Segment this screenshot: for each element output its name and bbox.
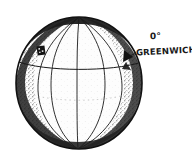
globe-drawing: [0, 0, 192, 165]
globe-illustration: 0° GREENWICH: [0, 0, 192, 165]
location-marker: [36, 45, 45, 55]
zero-degrees-label: 0°: [150, 31, 162, 41]
